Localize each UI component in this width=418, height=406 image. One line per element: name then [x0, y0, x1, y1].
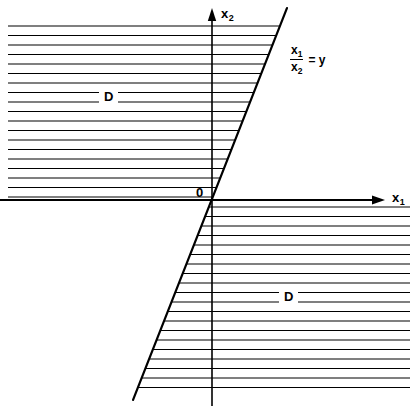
- axis-label-x2: x2: [221, 7, 234, 23]
- region-label-lower-D: D: [284, 290, 293, 303]
- fraction-numerator: x1: [290, 44, 303, 59]
- fraction-x1-over-x2: x1 x2: [290, 44, 303, 75]
- boundary-line-x1-over-x2: [133, 8, 287, 400]
- coordinate-plot: [0, 0, 418, 406]
- fraction-numerator-sub: 1: [298, 49, 303, 59]
- boundary-line-label: x1 x2 = y: [290, 44, 325, 75]
- fraction-denominator-main: x: [291, 60, 298, 74]
- hatch-lines-region-upper: [8, 26, 280, 197]
- fraction-denominator: x2: [290, 60, 303, 75]
- origin-label: 0: [196, 186, 203, 199]
- axis-label-x2-sub: 2: [229, 13, 234, 23]
- axis-label-x1: x1: [392, 191, 405, 207]
- fraction-denominator-sub: 2: [298, 66, 303, 76]
- axis-label-x2-main: x: [221, 6, 228, 21]
- region-label-upper-D: D: [104, 90, 113, 103]
- axis-label-x1-main: x: [392, 190, 399, 205]
- axis-label-x1-sub: 1: [400, 197, 405, 207]
- hatch-lines-region-lower: [138, 207, 410, 388]
- fraction-equals-y: = y: [308, 53, 325, 67]
- fraction-numerator-main: x: [291, 43, 298, 57]
- figure-canvas: x2 x1 0 x1 x2 = y D D: [0, 0, 418, 406]
